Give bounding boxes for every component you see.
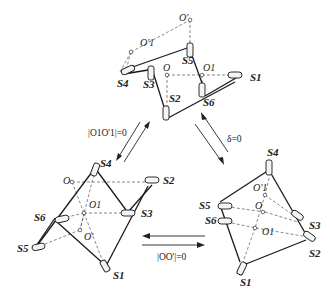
label-left-O: O <box>63 176 70 186</box>
condition-O1-O1prime: |O1O'1|=0 <box>88 129 127 139</box>
left-configuration <box>32 162 159 272</box>
label-right-O: O <box>255 201 262 211</box>
label-left-S4: S4 <box>100 158 112 169</box>
label-right-S3: S3 <box>309 220 321 231</box>
label-left-S3: S3 <box>141 208 153 219</box>
label-left-S2: S2 <box>163 175 175 186</box>
label-left-S1: S1 <box>113 270 125 281</box>
label-right-S2: S2 <box>309 248 321 259</box>
label-right-O1: O1 <box>262 227 274 237</box>
condition-delta: δ=0 <box>227 135 242 145</box>
label-top-S5: S5 <box>182 55 194 66</box>
label-top-O1: O1 <box>203 63 215 73</box>
mechanism-diagram: O' O'1 O O1 S1 S2 S3 S4 S5 S6 S4 S2 S3 S… <box>0 0 330 295</box>
label-top-S3: S3 <box>143 79 155 90</box>
diagram-canvas <box>0 0 330 295</box>
label-left-S5: S5 <box>17 243 29 254</box>
label-top-S4: S4 <box>117 78 129 89</box>
label-right-O1-prime: O'1 <box>253 183 267 193</box>
top-configuration <box>120 18 242 120</box>
label-left-S6: S6 <box>34 212 46 223</box>
label-right-S1: S1 <box>240 277 252 288</box>
label-right-S6: S6 <box>205 215 217 226</box>
label-top-S6: S6 <box>203 97 215 108</box>
condition-O-Oprime: |OO'|=0 <box>157 253 186 263</box>
label-top-O: O <box>163 63 170 73</box>
label-left-O-prime: O' <box>84 232 93 242</box>
label-top-S2: S2 <box>169 93 181 104</box>
label-right-S5: S5 <box>199 200 211 211</box>
label-right-S4: S4 <box>267 147 279 158</box>
label-top-O1-prime: O'1 <box>140 38 154 48</box>
label-top-O-prime: O' <box>179 13 188 23</box>
label-top-S1: S1 <box>250 72 262 83</box>
right-configuration <box>218 160 316 276</box>
label-left-O1: O1 <box>89 200 101 210</box>
